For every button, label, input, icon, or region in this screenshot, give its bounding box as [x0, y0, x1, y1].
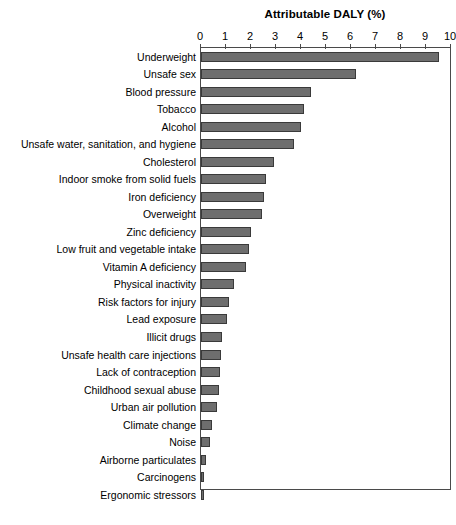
category-label: Climate change: [123, 419, 196, 431]
bar-row: Lead exposure: [0, 311, 456, 329]
bar-row: Illicit drugs: [0, 328, 456, 346]
category-label: Zinc deficiency: [127, 226, 196, 238]
bar-row: Childhood sexual abuse: [0, 381, 456, 399]
bar-row: Tobacco: [0, 101, 456, 119]
bar-row: Lack of contraception: [0, 363, 456, 381]
bar: [201, 402, 217, 412]
bar: [201, 385, 219, 395]
category-label: Cholesterol: [143, 156, 196, 168]
bar: [201, 297, 229, 307]
category-label: Ergonomic stressors: [100, 489, 196, 501]
bar: [201, 174, 266, 184]
chart-title: Attributable DALY (%): [200, 8, 450, 20]
category-label: Tobacco: [157, 103, 196, 115]
bar: [201, 279, 234, 289]
category-label: Unsafe sex: [143, 68, 196, 80]
category-label: Childhood sexual abuse: [84, 384, 196, 396]
bar: [201, 209, 262, 219]
bar-row: Unsafe health care injections: [0, 346, 456, 364]
x-tick-label: 9: [422, 30, 428, 42]
category-label: Low fruit and vegetable intake: [56, 243, 196, 255]
category-label: Vitamin A deficiency: [103, 261, 196, 273]
bar-row: Physical inactivity: [0, 276, 456, 294]
bar: [201, 52, 439, 62]
bar-row: Unsafe water, sanitation, and hygiene: [0, 136, 456, 154]
bar: [201, 139, 294, 149]
bar-row: Climate change: [0, 416, 456, 434]
bar: [201, 244, 249, 254]
bar-row: Blood pressure: [0, 83, 456, 101]
bar-row: Iron deficiency: [0, 188, 456, 206]
bar-rows: UnderweightUnsafe sexBlood pressureTobac…: [0, 48, 456, 488]
bar-row: Vitamin A deficiency: [0, 258, 456, 276]
bar-row: Zinc deficiency: [0, 223, 456, 241]
category-label: Carcinogens: [137, 471, 196, 483]
x-axis-ticks: 012345678910: [200, 30, 450, 46]
category-label: Unsafe health care injections: [61, 349, 196, 361]
category-label: Physical inactivity: [114, 278, 196, 290]
x-tick-label: 2: [247, 30, 253, 42]
category-label: Lead exposure: [127, 313, 196, 325]
bar: [201, 87, 311, 97]
category-label: Illicit drugs: [146, 331, 196, 343]
category-label: Unsafe water, sanitation, and hygiene: [21, 138, 196, 150]
category-label: Overweight: [143, 208, 196, 220]
x-tick-label: 4: [297, 30, 303, 42]
bar: [201, 157, 274, 167]
bar-row: Indoor smoke from solid fuels: [0, 171, 456, 189]
bar: [201, 104, 304, 114]
bar-row: Carcinogens: [0, 468, 456, 486]
bar: [201, 472, 204, 482]
category-label: Lack of contraception: [96, 366, 196, 378]
x-tick-label: 5: [322, 30, 328, 42]
bar-row: Cholesterol: [0, 153, 456, 171]
x-tick-label: 0: [197, 30, 203, 42]
bar: [201, 437, 210, 447]
bar-row: Unsafe sex: [0, 66, 456, 84]
bar: [201, 490, 204, 500]
bar-row: Underweight: [0, 48, 456, 66]
bar: [201, 332, 222, 342]
bar-row: Noise: [0, 433, 456, 451]
bar: [201, 262, 246, 272]
bar: [201, 122, 301, 132]
bar: [201, 420, 212, 430]
x-tick-label: 7: [372, 30, 378, 42]
x-tick-label: 6: [347, 30, 353, 42]
bar: [201, 367, 220, 377]
category-label: Underweight: [137, 51, 196, 63]
bar: [201, 314, 227, 324]
x-tick-label: 1: [222, 30, 228, 42]
bar-row: Urban air pollution: [0, 398, 456, 416]
bar-row: Risk factors for injury: [0, 293, 456, 311]
bar: [201, 227, 251, 237]
category-label: Alcohol: [162, 121, 196, 133]
bar: [201, 69, 356, 79]
attributable-daly-bar-chart: Attributable DALY (%) 012345678910 Under…: [0, 0, 456, 525]
category-label: Risk factors for injury: [98, 296, 196, 308]
x-tick-label: 3: [272, 30, 278, 42]
x-tick-label: 8: [397, 30, 403, 42]
bar: [201, 350, 221, 360]
x-tick-label: 10: [444, 30, 456, 42]
bar-row: Low fruit and vegetable intake: [0, 241, 456, 259]
bar-row: Airborne particulates: [0, 451, 456, 469]
category-label: Airborne particulates: [100, 454, 196, 466]
bar-row: Overweight: [0, 206, 456, 224]
category-label: Urban air pollution: [111, 401, 196, 413]
category-label: Indoor smoke from solid fuels: [59, 173, 196, 185]
bar-row: Alcohol: [0, 118, 456, 136]
category-label: Iron deficiency: [128, 191, 196, 203]
category-label: Blood pressure: [125, 86, 196, 98]
bar-row: Ergonomic stressors: [0, 486, 456, 504]
bar: [201, 455, 206, 465]
bar: [201, 192, 264, 202]
category-label: Noise: [169, 436, 196, 448]
